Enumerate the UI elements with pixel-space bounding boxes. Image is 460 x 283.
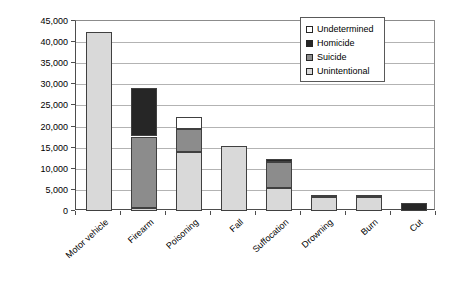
- y-axis-tick: [71, 189, 75, 190]
- y-tick-label: 15,000: [24, 143, 68, 153]
- gridline: [76, 84, 434, 85]
- y-tick-label: 35,000: [24, 58, 68, 68]
- legend-swatch-icon: [306, 40, 313, 47]
- x-axis-tick: [255, 211, 256, 215]
- legend-label: Unintentional: [317, 66, 370, 76]
- y-tick-label: 45,000: [24, 16, 68, 26]
- y-tick-label: 30,000: [24, 79, 68, 89]
- x-axis-tick: [120, 211, 121, 215]
- bar-segment-homicide-drowning: [311, 195, 337, 197]
- x-tick-label-suffocation: Suffocation: [250, 217, 290, 254]
- y-tick-label: 20,000: [24, 122, 68, 132]
- y-tick-label: 10,000: [24, 164, 68, 174]
- y-axis-tick: [71, 147, 75, 148]
- bar-segment-suicide-suffocation: [266, 162, 292, 188]
- legend-label: Undetermined: [317, 24, 374, 34]
- y-tick-label: 40,000: [24, 37, 68, 47]
- bar-segment-suicide-poisoning: [176, 129, 202, 152]
- bar-segment-suicide-firearm: [131, 137, 157, 208]
- x-axis-tick: [165, 211, 166, 215]
- y-tick-label: 5,000: [24, 185, 68, 195]
- x-tick-label-cut: Cut: [408, 217, 425, 234]
- y-tick-label: 25,000: [24, 100, 68, 110]
- y-tick-label: 0: [24, 206, 68, 216]
- x-axis-tick: [390, 211, 391, 215]
- y-axis-tick: [71, 20, 75, 21]
- bar-segment-unintentional-burn: [356, 197, 382, 211]
- legend-item-unintentional: Unintentional: [306, 64, 379, 78]
- x-axis-tick: [345, 211, 346, 215]
- bar-segment-unintentional-motor-vehicle: [86, 32, 112, 211]
- legend-swatch-icon: [306, 26, 313, 33]
- bar-segment-undetermined-poisoning: [176, 117, 202, 129]
- x-tick-label-firearm: Firearm: [125, 217, 155, 245]
- y-axis-tick: [71, 104, 75, 105]
- bar-segment-unintentional-fall: [221, 146, 247, 211]
- x-axis-tick: [75, 211, 76, 215]
- legend-label: Homicide: [317, 38, 355, 48]
- x-axis-tick: [210, 211, 211, 215]
- y-axis-tick: [71, 126, 75, 127]
- y-axis-tick: [71, 62, 75, 63]
- bar-segment-unintentional-firearm: [131, 208, 157, 211]
- x-tick-label-fall: Fall: [228, 217, 245, 234]
- legend-item-suicide: Suicide: [306, 50, 379, 64]
- x-tick-label-burn: Burn: [359, 217, 380, 237]
- legend-item-homicide: Homicide: [306, 36, 379, 50]
- x-axis-tick: [435, 211, 436, 215]
- bar-segment-homicide-cut: [401, 203, 427, 211]
- x-tick-label-poisoning: Poisoning: [164, 217, 200, 251]
- legend-swatch-icon: [306, 54, 313, 61]
- bar-segment-unintentional-suffocation: [266, 188, 292, 211]
- legend-swatch-icon: [306, 68, 313, 75]
- legend-item-undetermined: Undetermined: [306, 22, 379, 36]
- y-axis-tick: [71, 83, 75, 84]
- legend-label: Suicide: [317, 52, 347, 62]
- y-axis-tick: [71, 41, 75, 42]
- bar-segment-unintentional-poisoning: [176, 152, 202, 211]
- x-tick-label-motor-vehicle: Motor vehicle: [64, 217, 110, 260]
- x-tick-label-drowning: Drowning: [300, 217, 335, 250]
- chart-figure: Deaths 05,00010,00015,00020,00025,00030,…: [0, 0, 460, 283]
- bar-segment-unintentional-drowning: [311, 197, 337, 211]
- bar-segment-homicide-burn: [356, 195, 382, 197]
- y-axis-tick: [71, 168, 75, 169]
- bar-segment-homicide-suffocation: [266, 159, 292, 162]
- legend: UndeterminedHomicideSuicideUnintentional: [300, 17, 385, 82]
- x-axis-tick: [300, 211, 301, 215]
- bar-segment-homicide-firearm: [131, 88, 157, 136]
